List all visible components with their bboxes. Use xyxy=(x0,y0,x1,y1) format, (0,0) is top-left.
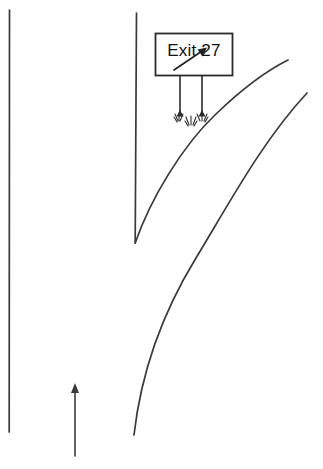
diagram-canvas: Exit 27 xyxy=(0,0,323,469)
median-edge-line xyxy=(135,13,136,243)
travel-direction-arrow-icon xyxy=(71,383,79,456)
inner-ramp-curve xyxy=(135,60,288,243)
outer-ramp-curve xyxy=(134,93,307,435)
grass-tuft-right xyxy=(197,113,208,122)
grass-tuft-center xyxy=(185,116,197,126)
